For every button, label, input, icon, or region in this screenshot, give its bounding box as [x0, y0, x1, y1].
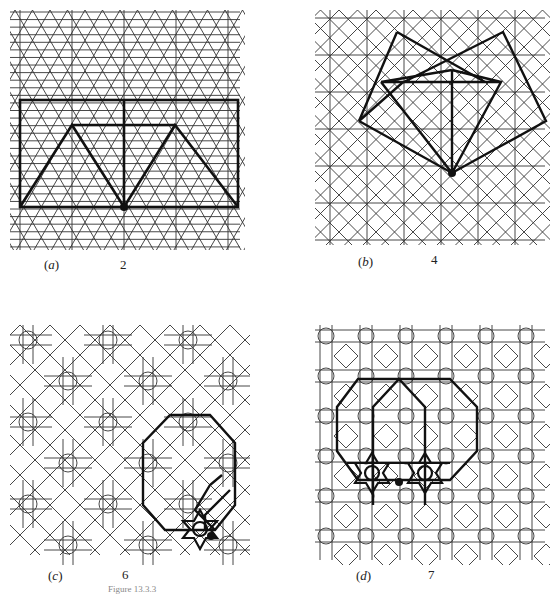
figure-caption: Figure 13.3.3 [108, 584, 156, 594]
panel-b-number: 4 [431, 252, 438, 268]
square-lattice-diagram [315, 10, 550, 250]
rotation-center-dot [207, 532, 215, 540]
rotation-center-dot [395, 478, 403, 486]
panel-d-number: 7 [428, 567, 435, 583]
panel-a [10, 10, 245, 255]
panel-c-number: 6 [122, 567, 129, 583]
rotation-center-dot [120, 203, 128, 211]
panel-d [315, 325, 550, 565]
circle-diamond-grid-diagram [315, 325, 550, 565]
panel-c-label: (c) [48, 568, 62, 584]
panel-c [10, 325, 250, 565]
panel-a-number: 2 [120, 257, 127, 273]
panel-b-label: (b) [358, 254, 373, 270]
star-cross-pattern-diagram [10, 325, 250, 565]
triangular-lattice-diagram [10, 10, 245, 255]
panel-d-label: (d) [356, 568, 371, 584]
rotation-center-dot [448, 169, 456, 177]
panel-b [315, 10, 550, 250]
panel-a-label: (a) [44, 257, 59, 273]
